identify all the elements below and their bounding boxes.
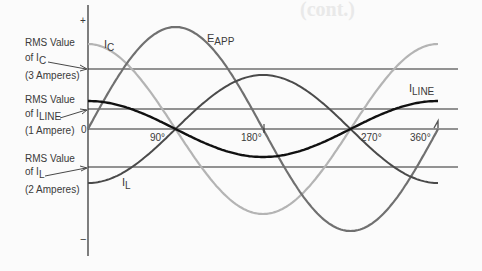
svg-text:of ILINE: of ILINE (25, 108, 61, 122)
tick-label-90: 90° (150, 132, 165, 143)
svg-text:(2 Amperes): (2 Amperes) (25, 184, 79, 195)
arrow-360-icon (434, 121, 438, 128)
svg-text:RMS Value: RMS Value (25, 37, 75, 48)
zero-label: 0 (81, 124, 87, 135)
annotation-ic-rms: RMS Value of IC (3 Amperes) (25, 37, 87, 81)
annotation-il-rms: RMS Value of IL (2 Amperes) (25, 153, 87, 195)
svg-text:RMS Value: RMS Value (25, 153, 75, 164)
svg-text:of IC: of IC (25, 52, 46, 66)
tick-label-360: 360° (410, 132, 431, 143)
minus-label: − (80, 233, 86, 245)
svg-text:(1 Ampere): (1 Ampere) (25, 125, 74, 136)
plus-label: + (80, 15, 86, 26)
ac-waveform-diagram: (cont.) + − 0 90° 180° 270° 360° RMS Val… (0, 0, 482, 271)
svg-text:of IL: of IL (25, 166, 45, 180)
tick-label-270: 270° (361, 132, 382, 143)
background-heading: (cont.) (300, 0, 355, 21)
label-ic: IC (104, 38, 114, 53)
svg-text:RMS Value: RMS Value (25, 94, 75, 105)
label-il: IL (122, 176, 131, 191)
label-eapp: EAPP (207, 32, 235, 47)
svg-text:(3 Amperes): (3 Amperes) (25, 70, 79, 81)
arrow-il-rms (45, 168, 86, 176)
tick-label-180: 180° (241, 132, 262, 143)
annotation-iline-rms: RMS Value of ILINE (1 Ampere) (25, 94, 87, 136)
label-iline: ILINE (409, 82, 435, 97)
